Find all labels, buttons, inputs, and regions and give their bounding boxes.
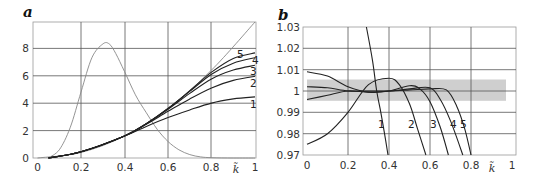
series-line-2	[48, 76, 255, 158]
svg-text:1.01: 1.01	[277, 64, 300, 76]
svg-text:8: 8	[22, 42, 29, 54]
svg-text:1: 1	[252, 161, 259, 173]
svg-text:0.6: 0.6	[160, 161, 177, 173]
series-line-3	[48, 65, 255, 158]
x-axis-label-b: k̃	[489, 161, 496, 175]
svg-text:0.2: 0.2	[340, 159, 357, 171]
x-tick-labels-b: 0 0.2 0.4 0.6 0.8 1	[304, 159, 516, 171]
svg-text:1: 1	[250, 98, 257, 110]
svg-text:1: 1	[293, 85, 300, 97]
series-line-4	[48, 58, 255, 158]
chart-a: a 0 0.2 0.4 0.6 0.8 1 k̃ 0 2 4	[22, 3, 259, 176]
svg-text:2: 2	[22, 125, 29, 137]
svg-text:1: 1	[509, 159, 516, 171]
svg-text:0.97: 0.97	[277, 149, 300, 161]
svg-text:6: 6	[22, 70, 29, 82]
panel-label-a: a	[23, 3, 33, 21]
svg-text:0.99: 0.99	[277, 106, 300, 118]
svg-text:0: 0	[34, 161, 41, 173]
svg-text:1.03: 1.03	[277, 21, 300, 33]
svg-text:4: 4	[22, 97, 29, 109]
svg-text:0.6: 0.6	[422, 159, 439, 171]
x-axis-label-a: k̃	[233, 162, 240, 176]
svg-text:4: 4	[450, 118, 457, 130]
svg-text:0.8: 0.8	[203, 161, 220, 173]
y-tick-labels-a: 0 2 4 6 8	[22, 42, 29, 164]
svg-text:5: 5	[237, 48, 244, 60]
svg-text:1.02: 1.02	[277, 42, 300, 54]
svg-text:0.2: 0.2	[73, 161, 90, 173]
svg-text:2: 2	[250, 77, 257, 89]
svg-text:0.98: 0.98	[277, 128, 300, 140]
gridlines-b	[303, 27, 516, 155]
series-line-1	[48, 97, 255, 158]
series-group-a	[38, 22, 256, 158]
svg-text:5: 5	[460, 118, 467, 130]
series-line-5	[48, 53, 255, 158]
svg-text:3: 3	[430, 118, 437, 130]
svg-text:1: 1	[378, 118, 385, 130]
svg-text:3: 3	[250, 65, 257, 77]
y-tick-labels-b: 0.97 0.98 0.99 1 1.01 1.02 1.03	[277, 21, 300, 161]
svg-text:0: 0	[22, 152, 29, 164]
figure: a 0 0.2 0.4 0.6 0.8 1 k̃ 0 2 4	[0, 0, 535, 178]
series-line-diagonal-reference-	[38, 22, 256, 158]
svg-text:2: 2	[408, 118, 415, 130]
svg-text:0: 0	[304, 159, 311, 171]
x-tick-labels-a: 0 0.2 0.4 0.6 0.8 1	[34, 161, 258, 173]
svg-text:4: 4	[252, 54, 259, 66]
svg-text:0.4: 0.4	[381, 159, 398, 171]
svg-text:0.4: 0.4	[117, 161, 134, 173]
chart-b: b 0 0.2 0.4 0.6 0.8 1 k̃ 0.97 0.98	[277, 6, 516, 175]
curve-labels-b: 1 2 3 4 5	[378, 118, 467, 130]
svg-text:0.8: 0.8	[463, 159, 480, 171]
